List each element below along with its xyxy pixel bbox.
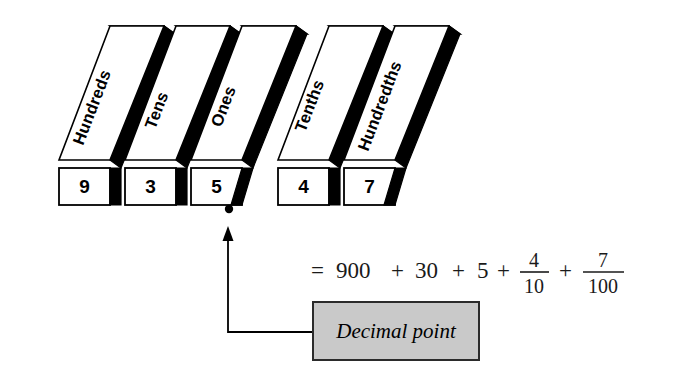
callout-decimal-point: Decimal point bbox=[313, 302, 479, 360]
equation-operator-4: + bbox=[559, 258, 572, 283]
equation-equals: = bbox=[311, 258, 324, 283]
diagram-canvas: Hundreds 9 Tens 3 Ones 5 bbox=[0, 0, 681, 373]
expanded-form-equation: = 900 + 30 + 5 + 4 10 + 7 100 bbox=[311, 249, 624, 297]
digit-value-tenths: 4 bbox=[298, 176, 309, 197]
equation-operator-2: + bbox=[452, 258, 465, 283]
equation-operator-3: + bbox=[497, 258, 510, 283]
digit-value-hundreds: 9 bbox=[79, 176, 90, 197]
callout-label: Decimal point bbox=[335, 319, 457, 343]
digit-box-shadow-tens bbox=[176, 168, 187, 205]
decimal-point-dot bbox=[225, 205, 233, 213]
decimal-point-leader bbox=[223, 226, 314, 332]
equation-term-hundreds: 900 bbox=[336, 258, 371, 283]
fraction-numerator-hundredths: 7 bbox=[598, 249, 608, 271]
leader-arrowhead-icon bbox=[223, 226, 234, 241]
digit-value-tens: 3 bbox=[145, 176, 156, 197]
fraction-denominator-hundredths: 100 bbox=[588, 275, 618, 297]
equation-term-tens: 30 bbox=[415, 258, 438, 283]
digit-value-hundredths: 7 bbox=[364, 176, 375, 197]
place-value-diagram: Hundreds 9 Tens 3 Ones 5 bbox=[0, 0, 681, 373]
equation-term-ones: 5 bbox=[477, 258, 489, 283]
digit-box-shadow-hundreds bbox=[110, 168, 121, 205]
equation-operator-1: + bbox=[391, 258, 404, 283]
leader-line-path bbox=[228, 240, 313, 332]
digit-value-ones: 5 bbox=[211, 176, 222, 197]
fraction-numerator-tenths: 4 bbox=[529, 249, 539, 271]
fraction-denominator-tenths: 10 bbox=[524, 275, 544, 297]
equation-fraction-hundredths: 7 100 bbox=[583, 249, 624, 297]
digit-box-shadow-tenths bbox=[329, 168, 340, 205]
equation-fraction-tenths: 4 10 bbox=[520, 249, 549, 297]
